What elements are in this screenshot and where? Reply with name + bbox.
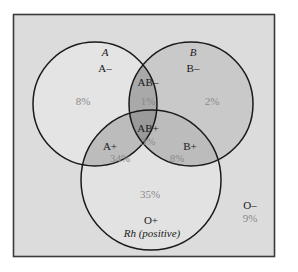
blood-type-venn-diagram: A B Rh (positive) A– 8% B– 2% AB– 1% AB+… bbox=[0, 0, 298, 272]
region-o-pos-percent: 35% bbox=[140, 188, 160, 200]
region-a-neg-type: A– bbox=[98, 62, 112, 74]
region-a-pos-type: A+ bbox=[103, 140, 117, 152]
region-b-neg-type: B– bbox=[187, 62, 200, 74]
set-a-label: A bbox=[101, 46, 109, 58]
region-a-pos-percent: 34% bbox=[110, 152, 130, 164]
region-ab-pos-type: AB+ bbox=[137, 122, 158, 134]
region-o-neg-percent: 9% bbox=[243, 212, 258, 224]
region-b-pos-percent: 8% bbox=[170, 152, 185, 164]
region-ab-neg-percent: 1% bbox=[141, 95, 156, 107]
set-rh-label: Rh (positive) bbox=[123, 227, 181, 240]
region-ab-pos-percent: 3% bbox=[141, 135, 156, 147]
region-b-neg-percent: 2% bbox=[205, 95, 220, 107]
set-b-label: B bbox=[190, 46, 197, 58]
region-a-neg-percent: 8% bbox=[76, 95, 91, 107]
region-o-neg-type: O– bbox=[243, 199, 257, 211]
region-ab-neg-type: AB– bbox=[138, 76, 159, 88]
region-o-pos-type: O+ bbox=[144, 214, 158, 226]
region-b-pos-type: B+ bbox=[183, 140, 197, 152]
